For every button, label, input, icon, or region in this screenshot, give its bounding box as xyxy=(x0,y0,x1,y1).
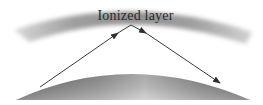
earth-surface xyxy=(16,74,250,100)
ionized-layer-label: Ionized layer xyxy=(0,8,263,24)
reflected-ray-upper xyxy=(131,25,146,33)
ionosphere-reflection-diagram: Ionized layer xyxy=(0,0,263,105)
incident-ray-upper xyxy=(118,25,131,33)
